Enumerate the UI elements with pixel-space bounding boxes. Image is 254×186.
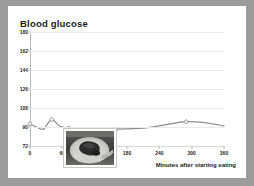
data-point-marker — [50, 118, 54, 122]
food-photo-image — [66, 131, 114, 165]
x-axis-tick: 180 — [123, 150, 131, 156]
x-axis-tick: 240 — [155, 150, 163, 156]
data-point-marker — [28, 122, 32, 126]
gridline — [30, 108, 224, 109]
gridline — [30, 127, 224, 128]
y-axis-tick-labels: 7290108126144162180 — [8, 32, 28, 147]
x-axis-tick: 360 — [220, 150, 228, 156]
plate-of-food-icon — [66, 131, 114, 165]
gridline — [30, 89, 224, 90]
gridline — [30, 51, 224, 52]
data-point-marker — [184, 120, 188, 124]
x-axis-tick-labels: 060120180240300360 — [30, 150, 224, 160]
plot-area — [30, 32, 224, 146]
x-axis-tick-mark — [224, 146, 225, 149]
x-axis-tick: 0 — [29, 150, 32, 156]
gridline — [30, 32, 224, 33]
food-photo — [63, 128, 117, 168]
x-axis-tick: 300 — [187, 150, 195, 156]
page-title: Blood glucose — [20, 18, 88, 29]
x-axis-label: Minutes after starting eating — [156, 162, 236, 168]
chart-card: Blood glucose 7290108126144162180 060120… — [8, 6, 246, 178]
x-axis-tick-mark — [191, 146, 192, 149]
gridline — [30, 70, 224, 71]
x-axis-tick-mark — [30, 146, 31, 149]
x-axis-tick-mark — [159, 146, 160, 149]
screenshot-frame: Blood glucose 7290108126144162180 060120… — [0, 0, 254, 186]
x-axis-tick-mark — [127, 146, 128, 149]
